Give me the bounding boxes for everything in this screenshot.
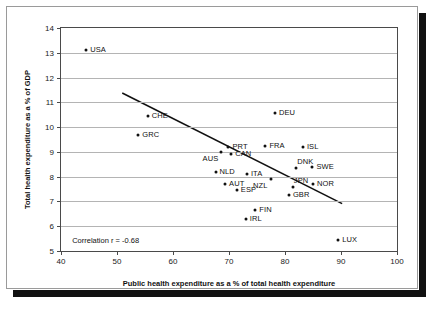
y-tick-mark-13	[57, 53, 61, 54]
gridline-y-7	[61, 201, 397, 202]
data-point-grc	[137, 133, 140, 136]
point-label-nld: NLD	[220, 167, 235, 176]
point-label-irl: IRL	[250, 214, 262, 223]
data-point-swe	[311, 165, 314, 168]
data-point-nld	[214, 170, 217, 173]
x-tick-label-100: 100	[390, 257, 403, 266]
y-tick-label-5: 5	[50, 247, 54, 256]
x-tick-label-50: 50	[113, 257, 122, 266]
y-tick-mark-9	[57, 152, 61, 153]
x-tick-label-40: 40	[57, 257, 66, 266]
y-tick-mark-12	[57, 78, 61, 79]
point-label-usa: USA	[90, 45, 106, 54]
y-tick-label-11: 11	[46, 98, 54, 107]
data-point-lux	[337, 238, 340, 241]
y-tick-label-8: 8	[50, 172, 54, 181]
point-label-isl: ISL	[307, 142, 319, 151]
x-tick-label-90: 90	[337, 257, 346, 266]
x-tick-mark-100	[397, 251, 398, 255]
gridline-y-6	[61, 226, 397, 227]
y-tick-label-6: 6	[50, 222, 54, 231]
x-tick-mark-70	[229, 251, 230, 255]
gridline-y-8	[61, 177, 397, 178]
y-tick-label-10: 10	[45, 123, 54, 132]
point-label-esp: ESP	[241, 185, 256, 194]
data-point-nzl	[270, 178, 273, 181]
y-axis-title-text: Total health expenditure as a % of GDP	[24, 70, 33, 209]
correlation-annotation: Correlation r = -0.68	[72, 236, 139, 245]
point-label-deu: DEU	[279, 108, 295, 117]
data-point-can	[230, 153, 233, 156]
data-point-isl	[301, 145, 304, 148]
data-point-irl	[244, 217, 247, 220]
x-tick-label-70: 70	[225, 257, 234, 266]
data-point-gbr	[287, 194, 290, 197]
point-label-can: CAN	[235, 149, 251, 158]
gridline-y-13	[61, 53, 397, 54]
point-label-ita: ITA	[251, 169, 262, 178]
data-point-dnk	[295, 166, 298, 169]
point-label-jpn: JPN	[294, 176, 308, 185]
y-tick-label-12: 12	[45, 73, 54, 82]
data-point-fra	[264, 144, 267, 147]
plot-area: Correlation r = -0.68 567891011121314405…	[60, 27, 398, 252]
y-tick-mark-10	[57, 127, 61, 128]
y-tick-mark-14	[57, 28, 61, 29]
x-tick-label-80: 80	[281, 257, 290, 266]
data-point-aus	[219, 150, 222, 153]
gridline-y-11	[61, 102, 397, 103]
point-label-che: CHE	[152, 111, 168, 120]
y-tick-mark-7	[57, 201, 61, 202]
data-point-jpn	[291, 185, 294, 188]
point-label-swe: SWE	[316, 162, 333, 171]
data-point-esp	[235, 189, 238, 192]
y-tick-mark-8	[57, 177, 61, 178]
data-point-ita	[245, 173, 248, 176]
x-tick-mark-40	[61, 251, 62, 255]
data-point-fin	[254, 209, 257, 212]
point-label-gbr: GBR	[293, 190, 310, 199]
x-axis-title: Public health expenditure as a % of tota…	[60, 279, 398, 288]
gridline-y-12	[61, 78, 397, 79]
point-label-aus: AUS	[203, 154, 219, 163]
y-tick-label-13: 13	[45, 48, 54, 57]
y-tick-label-14: 14	[45, 24, 54, 33]
figure-shadow-right	[419, 13, 426, 296]
trendline	[61, 28, 397, 251]
y-tick-mark-6	[57, 226, 61, 227]
data-point-usa	[85, 49, 88, 52]
data-point-nor	[312, 183, 315, 186]
y-tick-label-9: 9	[50, 147, 54, 156]
point-label-nor: NOR	[317, 179, 334, 188]
point-label-fra: FRA	[269, 141, 284, 150]
y-tick-mark-11	[57, 102, 61, 103]
x-tick-mark-90	[341, 251, 342, 255]
data-point-deu	[273, 112, 276, 115]
gridline-y-10	[61, 127, 397, 128]
x-tick-mark-80	[285, 251, 286, 255]
y-axis-title: Total health expenditure as a % of GDP	[22, 27, 34, 252]
x-tick-label-60: 60	[169, 257, 178, 266]
chart-figure: Total health expenditure as a % of GDP C…	[0, 0, 434, 309]
y-tick-label-7: 7	[50, 197, 54, 206]
data-point-aut	[224, 183, 227, 186]
point-label-fin: FIN	[259, 205, 271, 214]
figure-shadow-bottom	[13, 290, 426, 297]
x-tick-mark-50	[117, 251, 118, 255]
point-label-grc: GRC	[142, 130, 159, 139]
data-point-prt	[227, 145, 230, 148]
point-label-lux: LUX	[342, 235, 357, 244]
data-point-che	[146, 114, 149, 117]
x-tick-mark-60	[173, 251, 174, 255]
